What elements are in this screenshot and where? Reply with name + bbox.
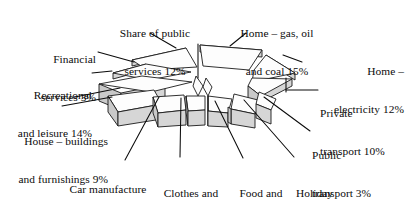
label-holiday-flights: Holiday flights 6%: [296, 162, 372, 208]
label-share-of-public-services-line2: services 12%: [96, 65, 214, 78]
label-food-and-drink: Food and drink 5%: [228, 162, 294, 208]
label-clothes-and-personal-effects: Clothes and personal effects 4%: [152, 162, 230, 208]
label-house-buildings-line1: House – buildings: [0, 135, 108, 148]
label-home-gas-oil-coal-line1: Home – gas, oil: [222, 27, 332, 40]
label-car-manufacture-line1: Car manufacture: [58, 183, 158, 196]
label-share-of-public-services: Share of public services 12%: [96, 2, 214, 103]
label-food-and-drink-line1: Food and: [228, 187, 294, 200]
label-public-transport-line1: Public: [312, 149, 404, 162]
label-private-transport-line1: Private: [320, 107, 406, 120]
pie-chart-figure: .top { fill:#fdfdfd; stroke:#1a1a1a; str…: [0, 0, 407, 208]
label-home-electricity-line1: Home –: [300, 65, 404, 78]
label-holiday-flights-line1: Holiday: [296, 187, 372, 200]
label-car-manufacture-and-delivery: Car manufacture and delivery 7%: [58, 158, 158, 208]
label-share-of-public-services-line1: Share of public: [96, 27, 214, 40]
label-clothes-line1: Clothes and: [152, 187, 230, 200]
label-recreational-and-leisure-line1: Recreational: [2, 89, 92, 102]
